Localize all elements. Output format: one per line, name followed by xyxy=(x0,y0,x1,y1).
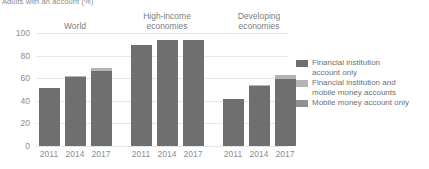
x-tick-world-2011: 2011 xyxy=(40,149,58,159)
chart-title: Adults with an account (%) xyxy=(2,0,93,6)
chart-legend: Financial institutionaccount only Financ… xyxy=(296,58,428,109)
group-title-line2: economies xyxy=(238,21,279,31)
bar-high-income-2017[interactable] xyxy=(183,40,204,146)
x-tick-world-2014: 2014 xyxy=(66,149,85,159)
y-tick-100: 100 xyxy=(2,28,30,38)
x-tick-high-income-2011: 2011 xyxy=(132,149,150,159)
bar-slot-world-2011[interactable]: 2011 xyxy=(36,33,62,146)
segment-fi-only xyxy=(223,99,244,147)
chart-figure: Adults with an account (%) 100 80 60 40 … xyxy=(0,0,429,169)
group-developing: Developingeconomies 2011 2014 xyxy=(220,33,298,146)
legend-label-mobile-money-only: Mobile money account only xyxy=(312,98,409,108)
x-tick-high-income-2017: 2017 xyxy=(184,149,203,159)
bar-slot-world-2014[interactable]: 2014 xyxy=(62,33,88,146)
segment-fi-only xyxy=(275,79,296,146)
y-tick-20: 20 xyxy=(2,118,30,128)
segment-fi-only xyxy=(183,40,204,146)
x-tick-developing-2017: 2017 xyxy=(276,149,295,159)
y-axis-labels: 100 80 60 40 20 0 xyxy=(0,33,30,146)
legend-label-financial-institution-and-mobile: Financial institution andmobile money ac… xyxy=(312,78,396,97)
segment-fi-only xyxy=(249,86,270,146)
legend-item-financial-institution-only[interactable]: Financial institutionaccount only xyxy=(296,58,428,77)
bar-world-2017[interactable] xyxy=(91,68,112,146)
group-title-line2: economies xyxy=(146,21,187,31)
bar-slot-high-income-2017[interactable]: 2017 xyxy=(180,33,206,146)
x-tick-developing-2011: 2011 xyxy=(224,149,242,159)
legend-swatch-financial-institution-only xyxy=(296,60,308,67)
bar-world-2011[interactable] xyxy=(39,88,60,146)
bar-slot-world-2017[interactable]: 2017 xyxy=(88,33,114,146)
bar-slot-high-income-2011[interactable]: 2011 xyxy=(128,33,154,146)
bar-developing-2011[interactable] xyxy=(223,99,244,147)
legend-label-line2: mobile money accounts xyxy=(312,88,396,97)
group-title-line1: Developing xyxy=(238,11,281,21)
bar-developing-2017[interactable] xyxy=(275,75,296,146)
x-tick-high-income-2014: 2014 xyxy=(158,149,177,159)
y-tick-60: 60 xyxy=(2,73,30,83)
bar-high-income-2014[interactable] xyxy=(157,40,178,146)
bar-slot-developing-2017[interactable]: 2017 xyxy=(272,33,298,146)
bar-slot-developing-2011[interactable]: 2011 xyxy=(220,33,246,146)
segment-fi-only xyxy=(65,77,86,146)
group-high-income: High-incomeeconomies 2011 2014 xyxy=(128,33,206,146)
group-title-world: World xyxy=(64,22,86,32)
bars-world: 2011 2014 2017 xyxy=(36,33,114,146)
x-tick-world-2017: 2017 xyxy=(92,149,111,159)
legend-label-line1: Financial institution and xyxy=(312,78,396,87)
bars-developing: 2011 2014 2017 xyxy=(220,33,298,146)
y-tick-40: 40 xyxy=(2,96,30,106)
bar-developing-2014[interactable] xyxy=(249,85,270,146)
group-title-high-income: High-incomeeconomies xyxy=(143,12,191,31)
segment-fi-only xyxy=(39,88,60,146)
legend-label-line2: account only xyxy=(312,68,357,77)
segment-fi-only xyxy=(91,71,112,146)
bar-slot-developing-2014[interactable]: 2014 xyxy=(246,33,272,146)
legend-item-financial-institution-and-mobile[interactable]: Financial institution andmobile money ac… xyxy=(296,78,428,97)
bars-high-income: 2011 2014 2017 xyxy=(128,33,206,146)
y-tick-0: 0 xyxy=(2,141,30,151)
y-tick-80: 80 xyxy=(2,51,30,61)
x-tick-developing-2014: 2014 xyxy=(250,149,269,159)
segment-fi-only xyxy=(131,45,152,146)
legend-label-line1: Financial institution xyxy=(312,58,380,67)
group-title-developing: Developingeconomies xyxy=(238,12,281,31)
legend-swatch-financial-institution-and-mobile xyxy=(296,80,308,87)
segment-fi-only xyxy=(157,40,178,146)
legend-item-mobile-money-only[interactable]: Mobile money account only xyxy=(296,98,428,108)
bar-slot-high-income-2014[interactable]: 2014 xyxy=(154,33,180,146)
group-title-line1: High-income xyxy=(143,11,191,21)
plot-area: World 2011 2014 xyxy=(36,33,288,146)
legend-swatch-mobile-money-only xyxy=(296,100,308,107)
bar-world-2014[interactable] xyxy=(65,76,86,146)
legend-label-financial-institution-only: Financial institutionaccount only xyxy=(312,58,380,77)
bar-high-income-2011[interactable] xyxy=(131,45,152,146)
group-world: World 2011 2014 xyxy=(36,33,114,146)
